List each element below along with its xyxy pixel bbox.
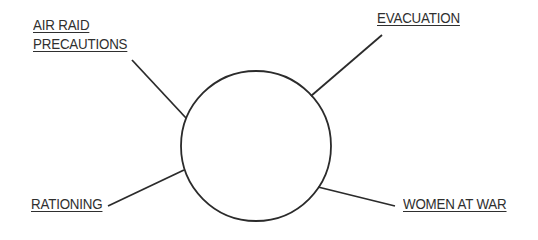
connector-women-at-war	[318, 187, 395, 206]
connector-air-raid-precautions	[132, 60, 186, 118]
label-women-at-war: WOMEN AT WAR	[403, 195, 507, 214]
label-line: RATIONING	[31, 195, 102, 214]
label-line: WOMEN AT WAR	[403, 195, 507, 214]
label-air-raid-precautions: AIR RAID PRECAUTIONS	[33, 16, 127, 54]
connector-rationing	[108, 170, 184, 206]
label-rationing: RATIONING	[31, 195, 102, 214]
label-evacuation: EVACUATION	[377, 9, 460, 28]
label-line: EVACUATION	[377, 9, 460, 28]
connector-evacuation	[311, 35, 382, 96]
label-line: AIR RAID	[33, 16, 127, 35]
label-line: PRECAUTIONS	[33, 35, 127, 54]
central-circle	[181, 71, 331, 221]
